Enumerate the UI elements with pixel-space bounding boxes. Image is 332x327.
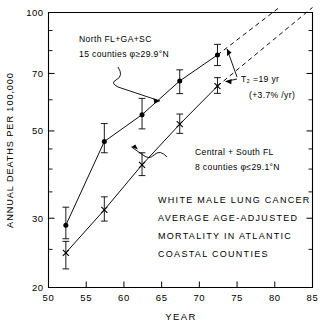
data-point-marker xyxy=(177,78,182,83)
data-point-marker xyxy=(63,223,68,228)
x-tick-label: 80 xyxy=(269,292,281,303)
south-series-label-line1: Central + South FL xyxy=(195,147,274,157)
x-axis-title: YEAR xyxy=(165,311,196,322)
x-tick-label: 50 xyxy=(43,292,55,303)
x-tick-label: 55 xyxy=(80,292,92,303)
doubling-time-label-line2: (+3.7% /yr) xyxy=(249,90,295,100)
data-point-marker xyxy=(102,139,107,144)
y-tick-label: 20 xyxy=(32,282,44,293)
title-line-4: COASTAL COUNTIES xyxy=(158,249,269,259)
chart-canvas: 505560657075808520305070100 YEAR ANNUAL … xyxy=(0,0,332,327)
y-tick-label: 70 xyxy=(32,68,44,79)
title-line-3: MORTALITY IN ATLANTIC xyxy=(158,231,292,241)
y-tick-label: 30 xyxy=(32,213,44,224)
north-series-label-line2: 15 counties φ≥29.9°N xyxy=(79,49,169,59)
x-tick-label: 85 xyxy=(307,292,319,303)
x-tick-label: 60 xyxy=(118,292,130,303)
title-line-1: WHITE MALE LUNG CANCER xyxy=(158,195,311,205)
title-line-2: AVERAGE AGE-ADJUSTED xyxy=(158,213,298,223)
doubling-time-label-line1: T₂ =19 yr xyxy=(241,74,279,84)
chart-figure: 505560657075808520305070100 YEAR ANNUAL … xyxy=(0,0,332,327)
x-tick-label: 65 xyxy=(156,292,168,303)
x-tick-label: 75 xyxy=(231,292,243,303)
x-tick-label: 70 xyxy=(193,292,205,303)
y-axis-title: ANNUAL DEATHS PER 100,000 xyxy=(5,72,15,228)
south-series-label-line2: 8 counties φ≤29.1°N xyxy=(195,162,280,172)
data-point-marker xyxy=(140,112,145,117)
data-point-marker xyxy=(215,52,220,57)
y-tick-label: 100 xyxy=(26,7,43,18)
north-series-label-line1: North FL+GA+SC xyxy=(79,34,152,44)
y-tick-label: 50 xyxy=(32,125,44,136)
